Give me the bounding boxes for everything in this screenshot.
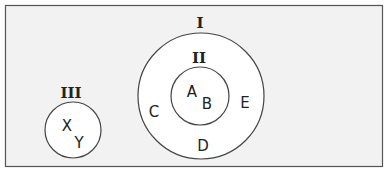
set-III-label: III — [60, 84, 81, 102]
element-Y: Y — [73, 134, 84, 152]
element-X: X — [62, 117, 72, 135]
set-III-circle — [45, 102, 101, 158]
element-D: D — [197, 137, 209, 155]
element-B: B — [202, 95, 212, 113]
set-diagram: I C D E II A B III X Y — [0, 0, 385, 171]
set-II-label: II — [192, 49, 206, 67]
element-C: C — [149, 103, 159, 121]
set-I-label: I — [196, 14, 203, 32]
element-A: A — [187, 83, 198, 101]
set-II-circle — [171, 67, 229, 125]
element-E: E — [240, 94, 249, 112]
